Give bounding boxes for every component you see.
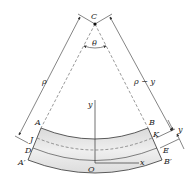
rho-dimension (19, 17, 80, 135)
label-y-axis: y (87, 100, 93, 109)
center-point-c (93, 22, 96, 25)
label-d: D (24, 146, 32, 155)
label-rho-minus-y: ρ − y (133, 77, 155, 86)
extension-line-right-top (95, 14, 112, 24)
label-theta: θ (92, 39, 97, 48)
label-origin: O (88, 165, 95, 174)
label-e: E (162, 146, 169, 155)
label-b-prime: B′ (163, 157, 172, 166)
label-x-axis: x (140, 158, 145, 167)
label-j: J (28, 135, 34, 144)
label-c: C (91, 12, 97, 21)
radial-line-right (95, 24, 148, 128)
label-b: B (148, 118, 155, 127)
label-y-dim: y (177, 125, 183, 134)
extension-line-left-bottom (15, 136, 28, 143)
label-k: K (152, 130, 160, 139)
label-a: A (34, 118, 41, 127)
y-dimension-arrow (177, 134, 184, 149)
curved-beam-diagram: C θ ρ ρ − y y x O y A B J K D E A′ B′ (0, 0, 193, 183)
label-a-prime: A′ (17, 158, 26, 167)
label-rho: ρ (41, 77, 47, 86)
